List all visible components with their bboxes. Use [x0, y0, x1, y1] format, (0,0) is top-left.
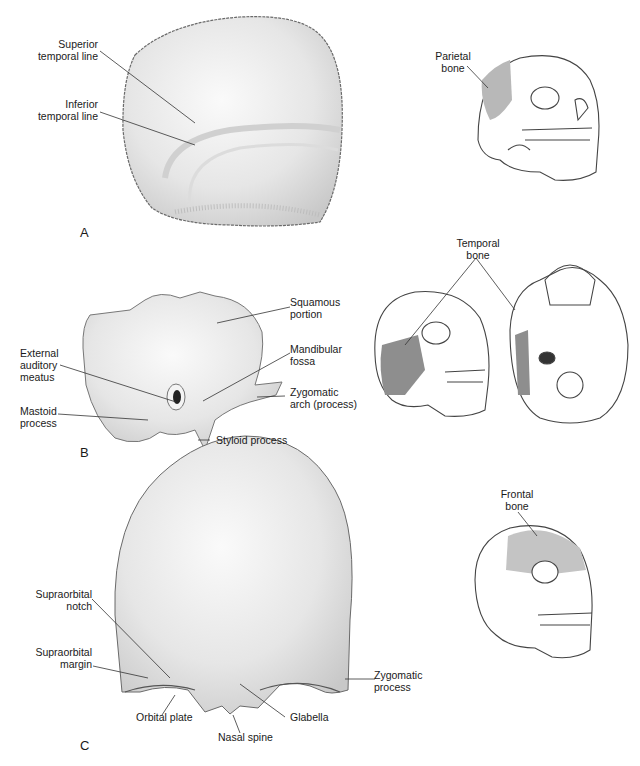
parietal-bone-drawing: [123, 17, 342, 226]
label-orbital-plate: Orbital plate: [136, 711, 193, 723]
skull-temporal-lateral-locator: [375, 292, 489, 417]
label-temporal-bone: Temporal bone: [450, 237, 506, 261]
panel-letter-c: C: [80, 738, 89, 753]
label-zygomatic-arch: Zygomatic arch (process): [290, 386, 357, 410]
skull-temporal-inferior-locator: [510, 265, 628, 423]
label-squamous-portion: Squamous portion: [290, 296, 340, 320]
label-supraorbital-margin: Supraorbital margin: [20, 646, 92, 670]
frontal-bone-drawing: [115, 436, 352, 714]
label-external-auditory-meatus: External auditory meatus: [20, 347, 59, 383]
label-superior-temporal-line: Superior temporal line: [30, 38, 98, 62]
label-glabella: Glabella: [290, 711, 329, 723]
skull-parietal-locator: [478, 56, 599, 181]
panel-letter-a: A: [80, 225, 89, 240]
label-mandibular-fossa: Mandibular fossa: [290, 343, 342, 367]
label-supraorbital-notch: Supraorbital notch: [20, 588, 92, 612]
label-frontal-bone: Frontal bone: [492, 488, 542, 512]
label-parietal-bone: Parietal bone: [428, 50, 478, 74]
label-zygomatic-process: Zygomatic process: [374, 669, 422, 693]
label-styloid-process: Styloid process: [216, 434, 287, 446]
skull-frontal-locator: [475, 526, 592, 658]
panel-letter-b: B: [80, 445, 89, 460]
label-mastoid-process: Mastoid process: [20, 405, 57, 429]
label-nasal-spine: Nasal spine: [218, 731, 273, 743]
label-inferior-temporal-line: Inferior temporal line: [30, 98, 98, 122]
